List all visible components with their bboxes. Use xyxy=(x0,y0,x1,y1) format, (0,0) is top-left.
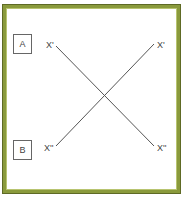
box-a-label: A xyxy=(19,39,25,49)
label-top-left: X' xyxy=(46,40,54,50)
label-bottom-right: X'' xyxy=(157,143,166,153)
box-a: A xyxy=(13,34,32,54)
label-bottom-left: X'' xyxy=(44,143,53,153)
box-b-label: B xyxy=(19,145,25,155)
crossing-lines xyxy=(0,0,182,197)
label-top-right: X' xyxy=(157,40,165,50)
box-b: B xyxy=(13,140,32,160)
